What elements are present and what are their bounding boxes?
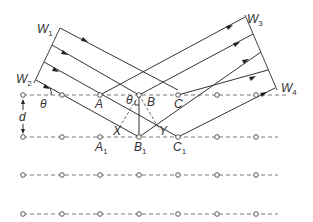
label-c1: C1 bbox=[173, 140, 187, 156]
label-c: C bbox=[174, 97, 183, 111]
arrow-icon bbox=[81, 37, 88, 42]
arrow-icon bbox=[226, 25, 233, 30]
label-theta-center: θ bbox=[126, 93, 133, 107]
arrow-up-icon bbox=[21, 99, 25, 104]
label-a1: A1 bbox=[94, 140, 108, 156]
arrow-icon bbox=[233, 42, 240, 47]
label-a: A bbox=[94, 97, 103, 111]
label-w2: W2 bbox=[16, 72, 32, 88]
reflected-arrows bbox=[226, 25, 267, 97]
label-w4: W4 bbox=[281, 81, 297, 97]
label-w3: W3 bbox=[247, 12, 263, 28]
incident-rays bbox=[36, 28, 178, 137]
label-w1: W1 bbox=[37, 22, 53, 38]
reflected-ray-3 bbox=[139, 52, 261, 137]
lattice-planes bbox=[23, 95, 288, 214]
incident-ray-4 bbox=[36, 80, 139, 137]
incident-arrows bbox=[43, 37, 88, 89]
label-d: d bbox=[19, 110, 26, 124]
arrow-icon bbox=[260, 92, 267, 97]
label-x: X bbox=[112, 124, 122, 138]
arrow-icon bbox=[249, 76, 256, 81]
label-b: B bbox=[147, 95, 155, 109]
label-y: Y bbox=[159, 124, 168, 138]
theta-arc-left bbox=[50, 88, 51, 95]
reflected-ray-1 bbox=[100, 17, 245, 95]
reflected-rays bbox=[100, 17, 275, 137]
right-angle-mark bbox=[135, 101, 139, 105]
wavefront-w1-w2 bbox=[34, 28, 60, 83]
bragg-diffraction-diagram: W1 W2 W3 W4 θ θ d A B C X Y A1 B1 C1 bbox=[0, 0, 313, 222]
reflected-ray-4 bbox=[178, 70, 268, 95]
label-b1: B1 bbox=[134, 140, 147, 156]
arrow-down-icon bbox=[21, 129, 25, 134]
label-theta-left: θ bbox=[40, 97, 47, 111]
